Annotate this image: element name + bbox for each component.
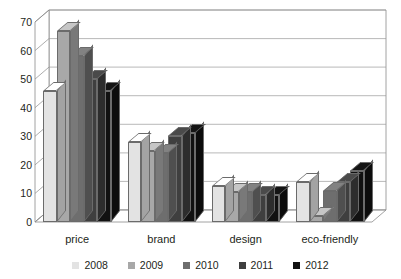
- legend-label: 2010: [195, 259, 218, 271]
- bar-eco-friendly-2008: [296, 182, 309, 222]
- bar-side: [84, 45, 93, 222]
- bar-face: [128, 142, 141, 222]
- legend-item-2012: 2012: [293, 259, 328, 271]
- legend-item-2010: 2010: [183, 259, 218, 271]
- bar-brand-2008: [128, 142, 141, 222]
- legend-swatch: [293, 262, 300, 269]
- bar-face: [43, 91, 56, 222]
- bar-side: [155, 139, 164, 222]
- legend-swatch: [128, 262, 135, 269]
- bar-chart: 010203040506070 pricebranddesigneco-frie…: [0, 0, 401, 279]
- legend-label: 2011: [251, 259, 274, 271]
- bar-face: [212, 186, 225, 222]
- legend-swatch: [183, 262, 190, 269]
- legend-item-2008: 2008: [72, 259, 107, 271]
- bar-side: [182, 125, 191, 222]
- bar-side: [97, 68, 106, 222]
- legend-item-2009: 2009: [128, 259, 163, 271]
- bar-side: [57, 79, 66, 222]
- x-tick-label: design: [204, 232, 288, 246]
- x-tick-label: eco-friendly: [288, 232, 372, 246]
- legend: 20082009201020112012: [0, 256, 401, 274]
- bar-design-2008: [212, 186, 225, 222]
- legend-label: 2012: [305, 259, 328, 271]
- legend-label: 2009: [140, 259, 163, 271]
- bar-face: [296, 182, 309, 222]
- legend-swatch: [72, 262, 79, 269]
- legend-label: 2008: [84, 259, 107, 271]
- bar-side: [195, 122, 204, 222]
- x-axis: pricebranddesigneco-friendly: [0, 232, 401, 250]
- bar-side: [168, 142, 177, 222]
- x-tick-label: brand: [119, 232, 203, 246]
- bar-side: [111, 79, 120, 222]
- bar-side: [70, 19, 79, 222]
- bar-side: [141, 130, 150, 222]
- x-tick-label: price: [35, 232, 119, 246]
- legend-swatch: [239, 262, 246, 269]
- bar-price-2008: [43, 91, 56, 222]
- legend-item-2011: 2011: [239, 259, 274, 271]
